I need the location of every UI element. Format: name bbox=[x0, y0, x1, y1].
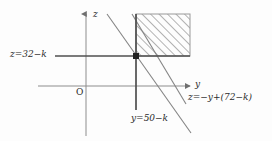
math-figure: z y O z=32−k y=50−k z=−y+(72−k) bbox=[0, 0, 272, 141]
vertex-point bbox=[133, 53, 139, 59]
z-axis-label: z bbox=[93, 10, 98, 19]
origin-label: O bbox=[76, 88, 83, 97]
label-y-equals-50-minus-k: y=50−k bbox=[131, 114, 168, 123]
label-z-equals-32-minus-k: z=32−k bbox=[10, 50, 47, 59]
y-axis-label: y bbox=[195, 80, 200, 89]
label-z-equals-minus-y-plus-72-minus-k: z=−y+(72−k) bbox=[188, 93, 252, 102]
